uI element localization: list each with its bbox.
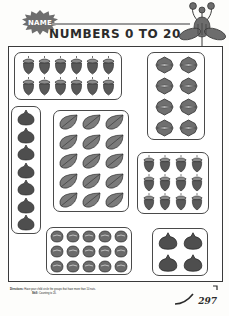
- group-figs-four[interactable]: [152, 228, 208, 276]
- walnut-icon: [179, 77, 198, 95]
- nut-icon: [66, 245, 80, 258]
- fig-icon: [157, 231, 179, 251]
- fig-icon: [16, 214, 36, 231]
- leaf-icon: [81, 172, 102, 190]
- leaf-icon: [81, 191, 102, 209]
- acorn-icon: [190, 193, 204, 211]
- nut-icon: [98, 230, 112, 243]
- skill-line: Skill: Counting to 20.: [10, 292, 160, 296]
- group-figs-seven[interactable]: [11, 106, 41, 234]
- page-number: 297: [198, 296, 217, 306]
- acorn-icon: [142, 174, 156, 192]
- walnut-icon: [155, 119, 174, 137]
- acorn-icon: [21, 77, 36, 96]
- acorn-icon: [53, 77, 68, 96]
- nut-icon: [66, 230, 80, 243]
- item-grid: [141, 155, 205, 212]
- nut-icon: [82, 260, 96, 273]
- item-grid: [152, 54, 200, 138]
- nut-icon: [98, 245, 112, 258]
- acorn-icon: [190, 174, 204, 192]
- item-grid: [155, 230, 205, 274]
- acorn-icon: [53, 56, 68, 75]
- nut-icon: [114, 260, 128, 273]
- acorn-icon: [69, 56, 84, 75]
- nut-icon: [50, 260, 64, 273]
- worksheet-header: NAME NUMBERS 0 TO 20: [0, 0, 229, 48]
- nut-icon: [114, 245, 128, 258]
- group-acorns-twelve[interactable]: [14, 52, 122, 100]
- acorn-icon: [142, 155, 156, 173]
- flower-plant-icon: [177, 0, 227, 52]
- leaf-icon: [58, 113, 79, 131]
- walnut-icon: [155, 77, 174, 95]
- acorn-icon: [69, 77, 84, 96]
- nut-icon: [66, 260, 80, 273]
- acorn-icon: [85, 77, 100, 96]
- item-grid: [49, 229, 129, 274]
- fig-icon: [16, 197, 36, 214]
- acorn-icon: [158, 174, 172, 192]
- leaf-icon: [81, 133, 102, 151]
- item-grid: [20, 55, 116, 97]
- group-acorns-twelve-b[interactable]: [137, 152, 209, 214]
- acorn-icon: [142, 193, 156, 211]
- leaf-icon: [58, 191, 79, 209]
- leaf-icon: [58, 133, 79, 151]
- fig-icon: [182, 253, 204, 273]
- acorn-icon: [174, 155, 188, 173]
- group-leaves-fifteen[interactable]: [53, 110, 129, 212]
- page-title: NUMBERS 0 TO 20: [40, 27, 190, 41]
- nut-icon: [82, 245, 96, 258]
- leaf-icon: [104, 113, 125, 131]
- nut-icon: [50, 230, 64, 243]
- fig-icon: [182, 231, 204, 251]
- leaf-icon: [58, 152, 79, 170]
- acorn-icon: [158, 155, 172, 173]
- leaf-icon: [104, 152, 125, 170]
- walnut-icon: [179, 98, 198, 116]
- group-nuts-fifteen[interactable]: [46, 227, 132, 275]
- directions-label: Directions:: [10, 288, 24, 291]
- name-label: NAME: [28, 19, 52, 27]
- acorn-icon: [174, 174, 188, 192]
- item-grid: [57, 112, 126, 210]
- nut-icon: [114, 230, 128, 243]
- leaf-icon: [104, 133, 125, 151]
- acorn-icon: [190, 155, 204, 173]
- fig-icon: [16, 179, 36, 196]
- walnut-icon: [155, 56, 174, 74]
- acorn-icon: [101, 77, 116, 96]
- skill-label: Skill:: [32, 292, 38, 295]
- leaf-icon: [104, 191, 125, 209]
- leaf-icon: [58, 172, 79, 190]
- item-grid: [14, 109, 38, 232]
- fig-icon: [16, 127, 36, 144]
- worksheet-page: NAME NUMBERS 0 TO 20: [0, 0, 229, 316]
- acorn-icon: [101, 56, 116, 75]
- acorn-icon: [37, 56, 52, 75]
- leaf-icon: [104, 172, 125, 190]
- acorn-icon: [85, 56, 100, 75]
- nut-icon: [98, 260, 112, 273]
- worksheet-footer: Directions: Have your child circle the g…: [10, 288, 160, 296]
- walnut-icon: [179, 119, 198, 137]
- skill-text: Counting to 20.: [39, 292, 57, 295]
- fig-icon: [16, 144, 36, 161]
- fig-icon: [16, 109, 36, 126]
- acorn-icon: [158, 193, 172, 211]
- nut-icon: [50, 245, 64, 258]
- walnut-icon: [179, 56, 198, 74]
- name-write-on-line[interactable]: [52, 23, 190, 25]
- acorn-icon: [21, 56, 36, 75]
- walnut-icon: [155, 98, 174, 116]
- directions-text: Have your child circle the groups that h…: [24, 288, 95, 291]
- nut-icon: [82, 230, 96, 243]
- leaf-icon: [81, 113, 102, 131]
- fig-icon: [16, 162, 36, 179]
- group-walnuts-eight[interactable]: [147, 52, 205, 140]
- acorn-icon: [37, 77, 52, 96]
- fig-icon: [157, 253, 179, 273]
- acorn-icon: [174, 193, 188, 211]
- leaf-icon: [81, 152, 102, 170]
